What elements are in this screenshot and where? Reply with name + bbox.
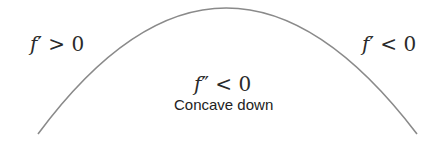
value: 0: [71, 32, 84, 56]
value: 0: [238, 72, 251, 96]
caption-concave-down: Concave down: [174, 96, 273, 113]
label-second-derivative-negative: f″ < 0: [194, 72, 251, 96]
relation-symbol: <: [380, 32, 397, 56]
relation-symbol: >: [48, 32, 65, 56]
relation-symbol: <: [215, 72, 232, 96]
prime-mark: ′: [369, 32, 374, 56]
double-prime-mark: ″: [201, 72, 208, 96]
value: 0: [403, 32, 416, 56]
label-left-derivative-positive: f′ > 0: [30, 32, 84, 56]
label-right-derivative-negative: f′ < 0: [362, 32, 416, 56]
prime-mark: ′: [37, 32, 42, 56]
